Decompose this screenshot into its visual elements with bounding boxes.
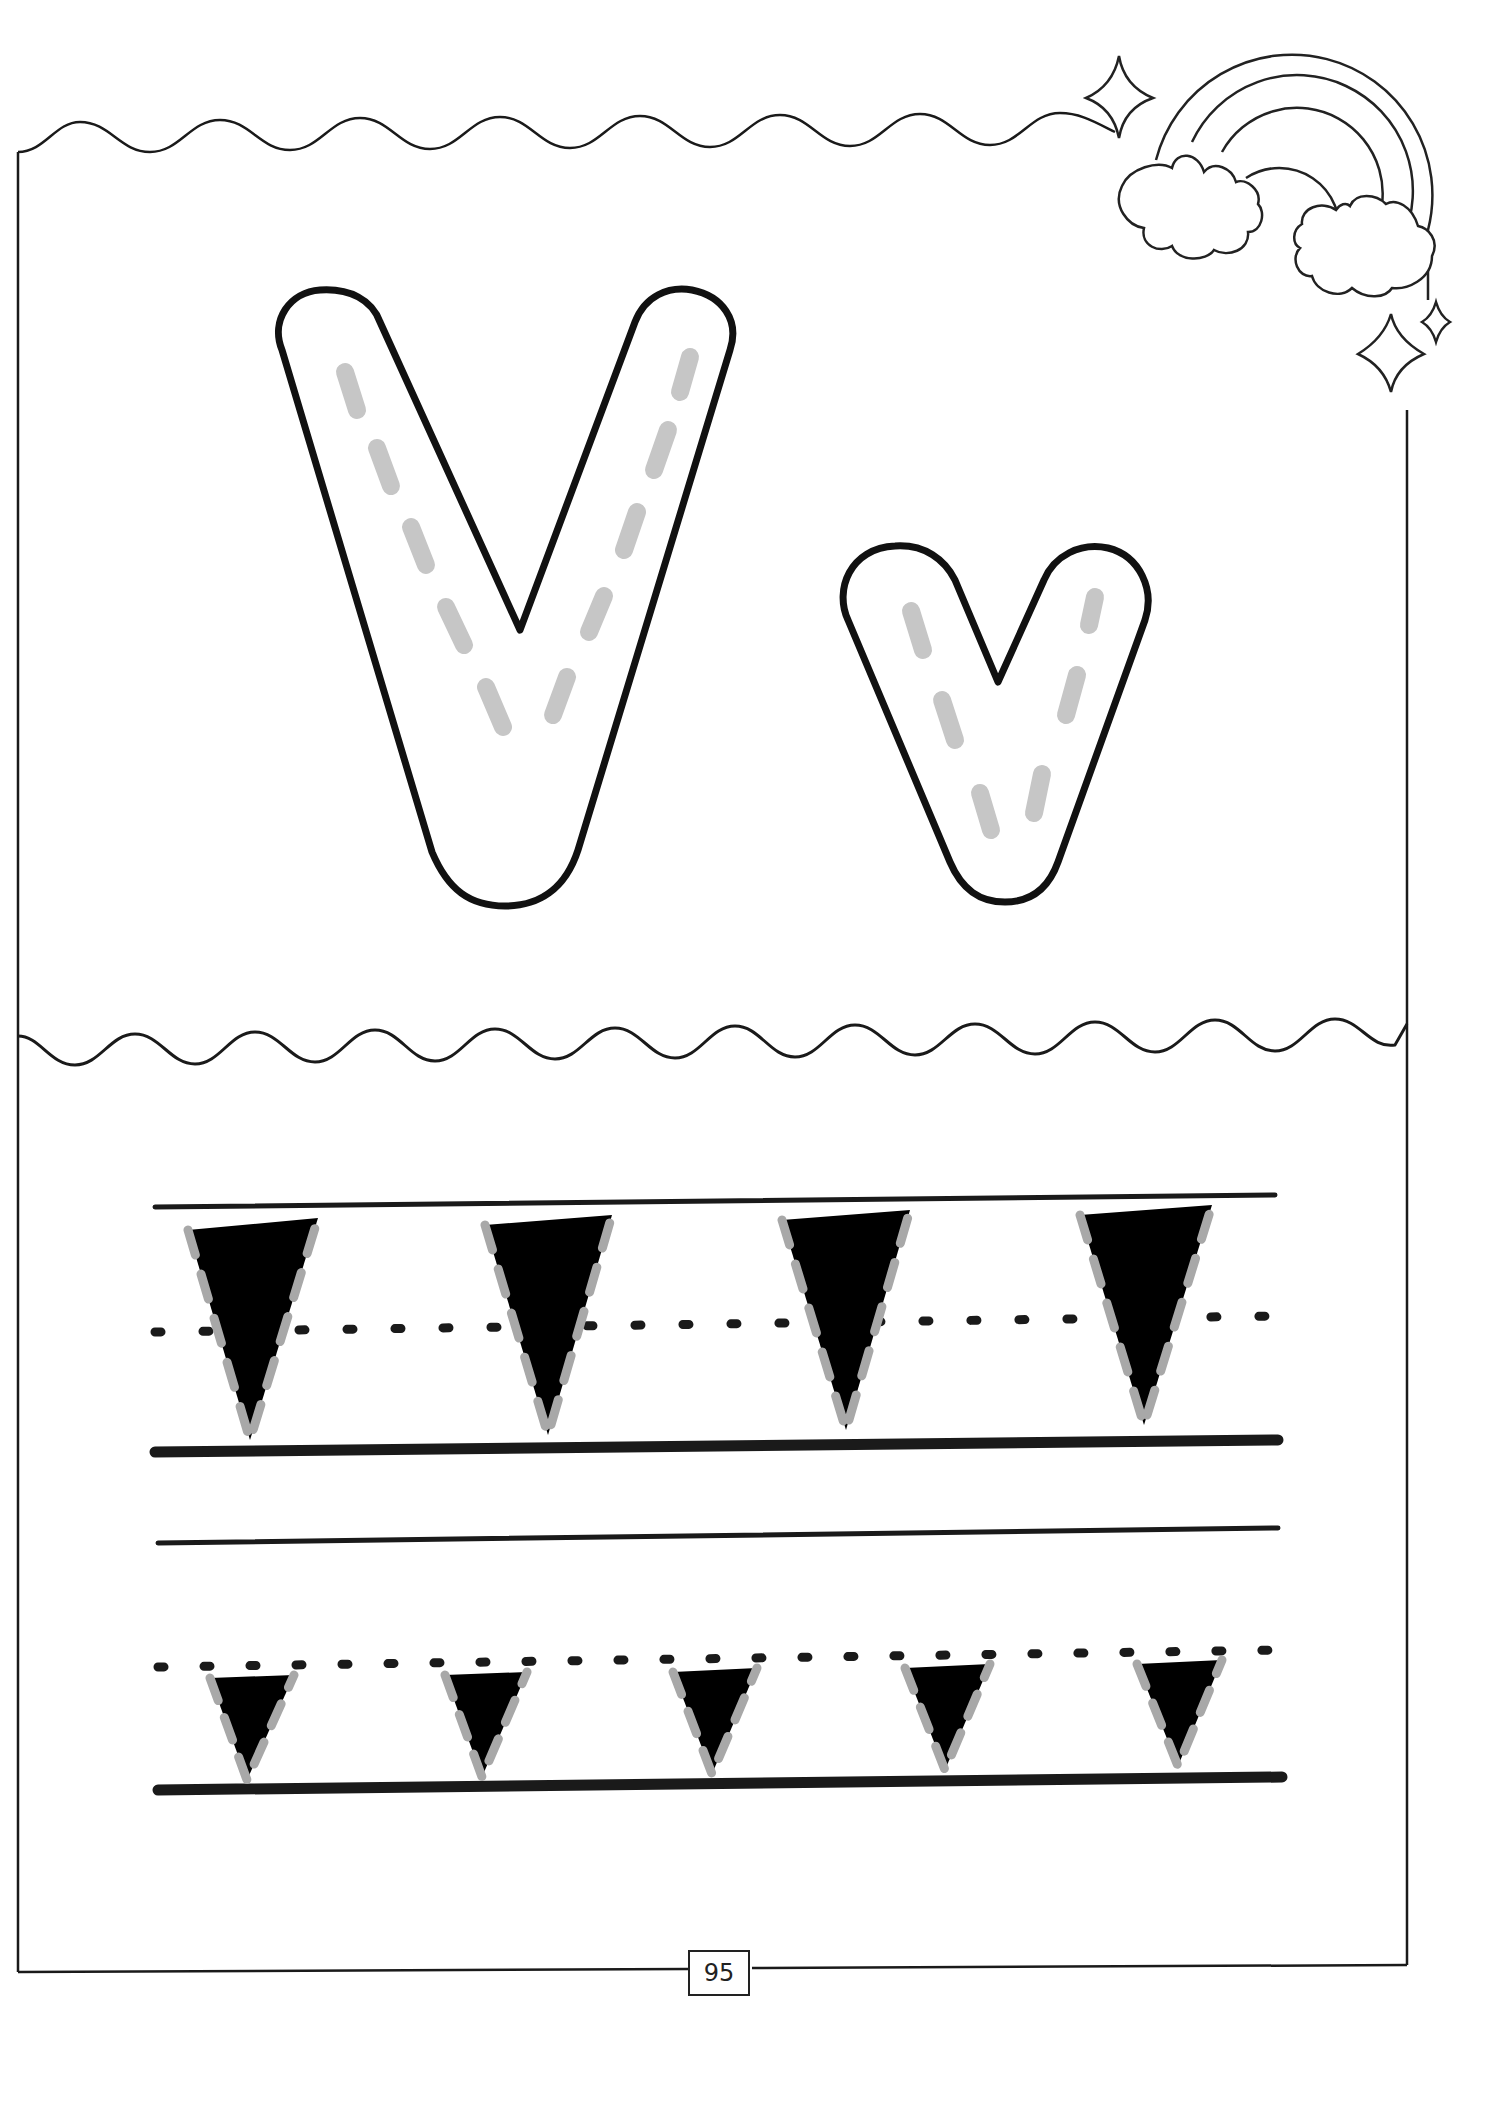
top-guide-line [155,1195,1275,1207]
big-lowercase-letter [843,546,1148,902]
cloud-icon [1294,196,1434,296]
page-number: 95 [688,1950,750,1996]
worksheet-art [0,0,1512,2105]
sparkle-icon [1086,56,1153,138]
cloud-icon [1119,156,1262,259]
uppercase-practice-row [155,1195,1278,1452]
baseline [155,1440,1278,1452]
midline-dotted [158,1650,1282,1667]
big-uppercase-letter [278,289,732,906]
baseline [158,1777,1282,1790]
top-wave-border [18,113,1115,152]
worksheet-page: V v [0,0,1512,2105]
top-guide-line [158,1528,1278,1543]
sparkle-icon [1422,302,1450,342]
middle-wave-divider [18,1019,1407,1065]
sparkle-icon [1358,314,1424,392]
lowercase-practice-row [158,1528,1282,1790]
